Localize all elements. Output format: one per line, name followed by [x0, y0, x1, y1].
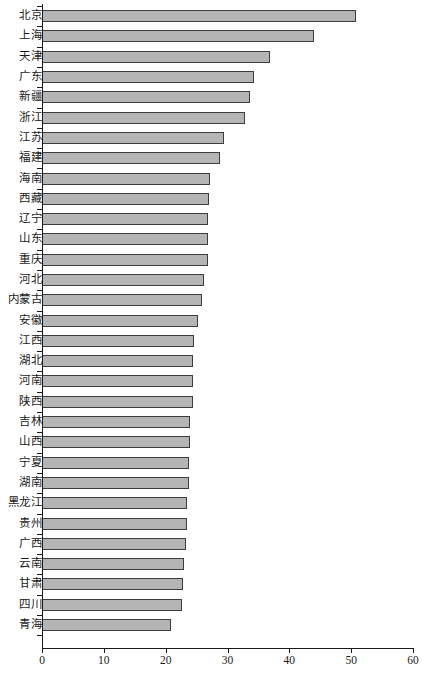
y-axis-tick: [37, 209, 42, 210]
y-axis-tick: [37, 493, 42, 494]
x-axis-tick-label: 50: [345, 655, 357, 667]
category-label: 青海: [19, 619, 42, 631]
bar-row: 西藏: [0, 189, 427, 209]
category-label: 福建: [19, 152, 42, 164]
category-label: 新疆: [19, 92, 42, 104]
category-label: 湖北: [19, 355, 42, 367]
y-axis-tick: [37, 554, 42, 555]
category-label: 海南: [19, 173, 42, 185]
bar: [42, 396, 193, 408]
bar-row: 甘肃: [0, 574, 427, 594]
y-axis-tick: [37, 290, 42, 291]
bar: [42, 375, 193, 387]
category-label: 吉林: [19, 416, 42, 428]
bar: [42, 173, 210, 185]
bar: [42, 558, 184, 570]
bar-row: 湖南: [0, 473, 427, 493]
category-label: 西藏: [19, 193, 42, 205]
x-axis-tick-label: 10: [98, 655, 110, 667]
bar: [42, 518, 187, 530]
x-axis-tick: [413, 648, 414, 653]
bar: [42, 619, 171, 631]
y-axis-tick: [37, 595, 42, 596]
bar-row: 山西: [0, 432, 427, 452]
category-label: 河北: [19, 274, 42, 286]
bar: [42, 497, 187, 509]
bar: [42, 294, 202, 306]
category-label: 浙江: [19, 112, 42, 124]
bar-chart: 北京上海天津广东新疆浙江江苏福建海南西藏辽宁山东重庆河北内蒙古安徽江西湖北河南陕…: [0, 0, 427, 674]
bar: [42, 274, 204, 286]
y-axis-tick: [37, 514, 42, 515]
bar-row: 新疆: [0, 87, 427, 107]
bar-row: 海南: [0, 168, 427, 188]
bar-row: 内蒙古: [0, 290, 427, 310]
bar-row: 安徽: [0, 310, 427, 330]
category-label: 云南: [19, 558, 42, 570]
bar-row: 河北: [0, 270, 427, 290]
bar: [42, 416, 190, 428]
y-axis-tick: [37, 128, 42, 129]
y-axis-tick: [37, 229, 42, 230]
bar-row: 福建: [0, 148, 427, 168]
y-axis-tick: [37, 26, 42, 27]
category-label: 陕西: [19, 396, 42, 408]
category-label: 甘肃: [19, 579, 42, 591]
bar-row: 辽宁: [0, 209, 427, 229]
bar: [42, 436, 190, 448]
bar: [42, 30, 314, 42]
x-axis-tick: [228, 648, 229, 653]
y-axis-tick: [37, 331, 42, 332]
bar: [42, 599, 182, 611]
y-axis-tick: [37, 432, 42, 433]
bar: [42, 193, 209, 205]
category-label: 湖南: [19, 477, 42, 489]
bar: [42, 112, 245, 124]
bar-row: 宁夏: [0, 453, 427, 473]
y-axis-tick: [37, 473, 42, 474]
category-label: 广东: [19, 71, 42, 83]
bar: [42, 335, 194, 347]
bar: [42, 71, 254, 83]
category-label: 广西: [19, 538, 42, 550]
category-label: 辽宁: [19, 213, 42, 225]
category-label: 上海: [19, 31, 42, 43]
y-axis-tick: [37, 534, 42, 535]
category-label: 江苏: [19, 132, 42, 144]
category-label: 贵州: [19, 518, 42, 530]
x-axis-tick: [166, 648, 167, 653]
y-axis-tick: [37, 635, 42, 636]
bar-row: 吉林: [0, 412, 427, 432]
x-axis-tick-label: 30: [222, 655, 234, 667]
y-axis-tick: [37, 412, 42, 413]
category-label: 黑龙江: [8, 498, 43, 510]
y-axis-tick: [37, 351, 42, 352]
category-label: 四川: [19, 599, 42, 611]
y-axis-tick: [37, 615, 42, 616]
category-label: 天津: [19, 51, 42, 63]
bar: [42, 315, 198, 327]
bar-row: 广西: [0, 534, 427, 554]
y-axis-line: [42, 4, 43, 648]
bar: [42, 457, 189, 469]
y-axis-tick: [37, 168, 42, 169]
y-axis-tick: [37, 453, 42, 454]
y-axis-tick: [37, 270, 42, 271]
plot-area: 北京上海天津广东新疆浙江江苏福建海南西藏辽宁山东重庆河北内蒙古安徽江西湖北河南陕…: [0, 0, 427, 648]
y-axis-tick: [37, 6, 42, 7]
category-label: 河南: [19, 376, 42, 388]
bar-row: 云南: [0, 554, 427, 574]
y-axis-tick: [37, 250, 42, 251]
bar-row: 重庆: [0, 250, 427, 270]
bar-row: 陕西: [0, 392, 427, 412]
x-axis-tick: [351, 648, 352, 653]
x-axis-tick-label: 60: [407, 655, 419, 667]
bar: [42, 91, 250, 103]
category-label: 北京: [19, 10, 42, 22]
bar-row: 四川: [0, 595, 427, 615]
category-label: 内蒙古: [8, 295, 43, 307]
x-axis-tick: [104, 648, 105, 653]
y-axis-tick: [37, 87, 42, 88]
y-axis-tick: [37, 67, 42, 68]
y-axis-tick: [37, 47, 42, 48]
